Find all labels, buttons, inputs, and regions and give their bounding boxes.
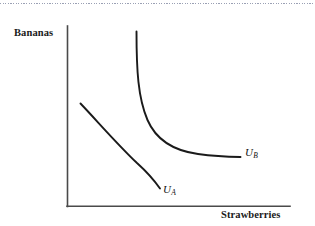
curve-label-ub: UB	[245, 146, 258, 158]
curve-label-ua-subscript: A	[171, 188, 176, 197]
curve-label-ub-subscript: B	[253, 151, 258, 160]
curve-label-ua-letter: U	[163, 183, 171, 195]
curve-label-ub-letter: U	[245, 146, 253, 158]
indifference-curve-figure: Bananas Strawberries UA UB	[0, 0, 315, 226]
y-axis-label: Bananas	[14, 27, 53, 38]
indifference-curve-ub	[137, 32, 241, 158]
indifference-curve-ua	[81, 104, 161, 189]
curve-label-ua: UA	[163, 183, 176, 195]
x-axis-label: Strawberries	[221, 209, 281, 220]
